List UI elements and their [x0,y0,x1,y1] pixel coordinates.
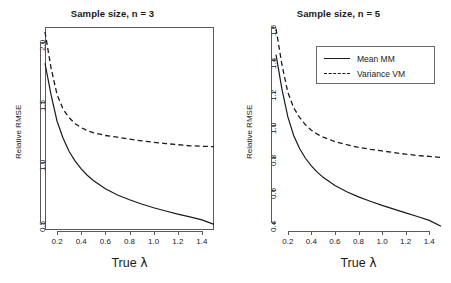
x-tick-label: 1.2 [172,237,183,246]
x-tick-label: 1.2 [400,237,411,246]
y-axis-line [40,42,41,223]
x-tick-mark [429,231,430,235]
x-tick-label: 0.8 [124,237,135,246]
x-axis-title-text-right: True [340,256,365,270]
series-line-variance-vm [45,32,214,147]
x-axis-line [57,231,202,232]
x-tick-label: 1.4 [196,237,207,246]
x-tick-mark [202,231,203,235]
series-line-mean-mm [45,63,214,224]
y-axis-line [271,27,272,223]
x-tick-label: 0.4 [306,237,317,246]
legend-item-mean-mm: Mean MM [324,51,395,66]
x-tick-label: 0.8 [353,237,364,246]
x-axis-title-left: True λ [70,255,190,270]
legend-item-variance-vm: Variance VM [324,66,405,81]
x-tick-label: 1.0 [377,237,388,246]
x-tick-label: 1.0 [148,237,159,246]
x-tick-label: 0.4 [76,237,87,246]
x-axis-line [288,231,429,232]
lambda-symbol-left: λ [140,255,147,270]
plot-curves-left [0,0,225,283]
legend-key-dashed-line [324,73,350,74]
x-tick-label: 0.2 [282,237,293,246]
legend-label-variance-vm: Variance VM [357,69,405,79]
legend: Mean MM Variance VM [316,46,435,84]
y-axis-title-right: Relative RMSE [245,104,254,158]
legend-key-solid-line [324,58,350,59]
legend-label-mean-mm: Mean MM [357,54,395,64]
lambda-symbol-right: λ [369,255,376,270]
x-tick-label: 0.2 [52,237,63,246]
x-tick-label: 0.6 [329,237,340,246]
x-tick-label: 1.4 [424,237,435,246]
chart-panel-right: Sample size, n = 5 Relative RMSE True λ … [226,0,451,283]
x-axis-title-text-left: True [111,256,136,270]
figure-canvas: Sample size, n = 3 Relative RMSE True λ … [0,0,451,283]
y-axis-title-left: Relative RMSE [14,104,23,158]
x-tick-label: 0.6 [100,237,111,246]
x-axis-title-right: True λ [299,255,419,270]
chart-panel-left: Sample size, n = 3 Relative RMSE True λ … [0,0,225,283]
